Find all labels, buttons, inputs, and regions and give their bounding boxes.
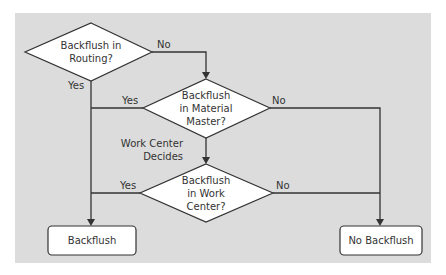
node-label: Backflush [182, 175, 230, 186]
edge-label-yes: Yes [119, 180, 136, 191]
edge-label-work-center-decides: Decides [143, 151, 183, 162]
node-label: No Backflush [348, 235, 413, 246]
result-no-backflush: No Backflush [340, 226, 422, 255]
edge-label-yes: Yes [121, 95, 138, 106]
node-label: Backflush [182, 90, 230, 101]
node-label: in Material [180, 103, 233, 114]
decision-backflush-in-material-master: Backflush in Material Master? [143, 79, 270, 138]
decision-backflush-in-routing: Backflush in Routing? [25, 23, 152, 81]
edge-label-no: No [157, 39, 171, 50]
edge-label-no: No [276, 180, 290, 191]
node-label: Backflush [68, 235, 116, 246]
node-label: in Work [187, 188, 225, 199]
arrowhead-icon [202, 157, 210, 164]
arrowhead-icon [376, 219, 384, 226]
edge-label-work-center-decides: Work Center [121, 138, 184, 149]
edge-label-no: No [272, 95, 286, 106]
node-label: Backflush in [61, 40, 122, 51]
edge-d2-no [270, 108, 380, 220]
node-label: Routing? [69, 53, 113, 64]
node-label: Master? [186, 116, 225, 127]
flowchart: Backflush in Routing? Backflush in Mater… [0, 0, 446, 275]
arrowhead-icon [87, 219, 95, 226]
decision-backflush-in-work-center: Backflush in Work Center? [140, 164, 273, 222]
edge-label-yes: Yes [67, 80, 84, 91]
result-backflush: Backflush [48, 226, 136, 255]
arrowhead-icon [202, 72, 210, 79]
edge-d1-no [152, 52, 206, 73]
node-label: Center? [187, 201, 226, 212]
